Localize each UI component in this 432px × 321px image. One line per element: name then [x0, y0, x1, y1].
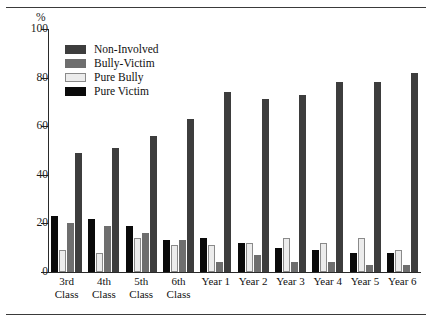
x-axis-category-label: 3rdClass	[48, 275, 85, 300]
bar-pure-victim	[200, 238, 207, 272]
x-axis-category-label: Year 6	[384, 275, 421, 300]
bar-non-involved	[374, 82, 381, 272]
bar-pure-bully	[59, 250, 66, 272]
bar-bully-victim	[142, 233, 149, 272]
x-axis-category-label: Year 4	[309, 275, 346, 300]
bar-non-involved	[150, 136, 157, 272]
bar-chart-figure: % 100806040200 Non-Involved Bully-Victim…	[0, 0, 432, 321]
bar-non-involved	[187, 119, 194, 272]
bar-bully-victim	[104, 226, 111, 272]
x-axis-category-label: Year 2	[234, 275, 271, 300]
x-axis-category-label: Year 5	[346, 275, 383, 300]
bar-non-involved	[112, 148, 119, 272]
bar-pure-bully	[96, 253, 103, 272]
x-axis-category-label: 5thClass	[123, 275, 160, 300]
bar-pure-victim	[88, 219, 95, 272]
bar-non-involved	[411, 73, 418, 272]
bar-bully-victim	[67, 223, 74, 272]
x-axis-category-label: Year 1	[197, 275, 234, 300]
bar-bully-victim	[179, 240, 186, 272]
y-tick-label: 40	[14, 169, 48, 181]
bar-pure-bully	[134, 238, 141, 272]
bar-group	[309, 29, 346, 272]
y-tick-label: 0	[14, 266, 48, 278]
bar-group	[384, 29, 421, 272]
bar-bully-victim	[366, 265, 373, 272]
bar-bully-victim	[254, 255, 261, 272]
bar-groups	[48, 29, 421, 272]
x-axis-labels: 3rdClass4thClass5thClass6thClassYear 1 Y…	[48, 275, 421, 300]
bar-group	[123, 29, 160, 272]
bar-bully-victim	[291, 262, 298, 272]
bar-group	[160, 29, 197, 272]
y-tick-label: 60	[14, 120, 48, 132]
x-axis-line	[48, 272, 421, 273]
bar-bully-victim	[403, 265, 410, 272]
bar-pure-bully	[283, 238, 290, 272]
bar-pure-victim	[387, 253, 394, 272]
y-tick-label: 100	[14, 23, 48, 35]
bar-pure-victim	[126, 226, 133, 272]
bar-bully-victim	[328, 262, 335, 272]
bar-bully-victim	[216, 262, 223, 272]
bar-group	[234, 29, 271, 272]
x-axis-category-label: 4thClass	[85, 275, 122, 300]
bar-pure-bully	[320, 243, 327, 272]
bar-non-involved	[75, 153, 82, 272]
bar-group	[346, 29, 383, 272]
y-tick-label: 20	[14, 217, 48, 229]
bar-non-involved	[262, 99, 269, 272]
bar-group	[272, 29, 309, 272]
bar-pure-bully	[171, 245, 178, 272]
bar-pure-victim	[238, 243, 245, 272]
x-axis-category-label: Year 3	[272, 275, 309, 300]
bar-pure-victim	[350, 253, 357, 272]
bar-group	[85, 29, 122, 272]
bar-pure-victim	[163, 240, 170, 272]
bar-pure-bully	[395, 250, 402, 272]
bar-group	[48, 29, 85, 272]
bar-non-involved	[299, 95, 306, 272]
figure-top-rule	[6, 7, 426, 8]
bar-non-involved	[224, 92, 231, 272]
bar-pure-bully	[358, 238, 365, 272]
bar-pure-bully	[246, 243, 253, 272]
figure-bottom-rule	[6, 314, 426, 315]
bar-pure-bully	[208, 245, 215, 272]
x-axis-category-label: 6thClass	[160, 275, 197, 300]
bar-group	[197, 29, 234, 272]
y-tick-label: 80	[14, 72, 48, 84]
bar-non-involved	[336, 82, 343, 272]
bar-pure-victim	[312, 250, 319, 272]
bar-pure-victim	[51, 216, 58, 272]
bar-pure-victim	[275, 248, 282, 272]
